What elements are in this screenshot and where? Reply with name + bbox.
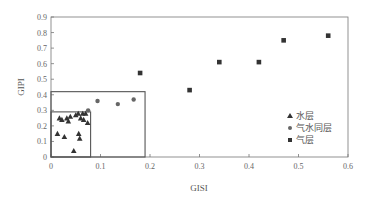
x-tick-label: 0.1 <box>96 162 106 171</box>
circle-marker-icon <box>288 126 292 130</box>
triangle-marker-icon <box>76 131 82 136</box>
legend-label: 气层 <box>296 134 314 145</box>
circle-marker-icon <box>95 99 99 103</box>
y-tick-label: 0.1 <box>37 137 47 146</box>
x-tick-label: 0.3 <box>195 162 205 171</box>
triangle-marker-icon <box>55 131 61 136</box>
x-tick-label: 0 <box>49 162 53 171</box>
x-tick-label: 0.4 <box>244 162 254 171</box>
triangle-marker-icon <box>77 136 83 141</box>
triangle-marker-icon <box>68 114 74 119</box>
scatter-chart: 00.10.20.30.40.50.600.10.20.30.40.50.60.… <box>0 0 369 199</box>
legend-item-gas: 气层 <box>288 134 314 145</box>
square-marker-icon <box>187 88 192 93</box>
y-tick-label: 0.9 <box>37 13 47 22</box>
circle-marker-icon <box>131 97 135 101</box>
y-tick-label: 0.8 <box>37 29 47 38</box>
y-tick-label: 0.7 <box>37 44 47 53</box>
square-marker-icon <box>326 33 331 38</box>
y-tick-label: 0 <box>43 153 47 162</box>
y-tick-label: 0.3 <box>37 106 47 115</box>
triangle-marker-icon <box>71 148 77 153</box>
square-marker-icon <box>288 138 292 142</box>
y-tick-label: 0.6 <box>37 60 47 69</box>
circle-marker-icon <box>116 102 120 106</box>
data-points <box>55 33 331 153</box>
triangle-marker-icon <box>287 113 293 118</box>
x-tick-label: 0.6 <box>343 162 353 171</box>
y-tick-label: 0.2 <box>37 122 47 131</box>
y-tick-label: 0.5 <box>37 75 47 84</box>
square-marker-icon <box>257 60 262 65</box>
square-marker-icon <box>217 60 222 65</box>
circle-marker-icon <box>86 108 90 112</box>
y-tick-label: 0.4 <box>37 91 47 100</box>
y-axis-title: GIPI <box>16 78 26 96</box>
triangle-marker-icon <box>62 134 68 139</box>
legend-label: 水层 <box>296 110 314 121</box>
square-marker-icon <box>138 71 143 76</box>
legend: 水层 气水同层 气层 <box>287 110 332 145</box>
legend-label: 气水同层 <box>296 122 332 133</box>
x-tick-label: 0.2 <box>145 162 155 171</box>
square-marker-icon <box>281 38 286 43</box>
legend-item-water: 水层 <box>287 110 314 121</box>
x-tick-label: 0.5 <box>294 162 304 171</box>
legend-item-gas-water: 气水同层 <box>288 122 332 133</box>
x-axis-title: GISI <box>190 183 208 193</box>
